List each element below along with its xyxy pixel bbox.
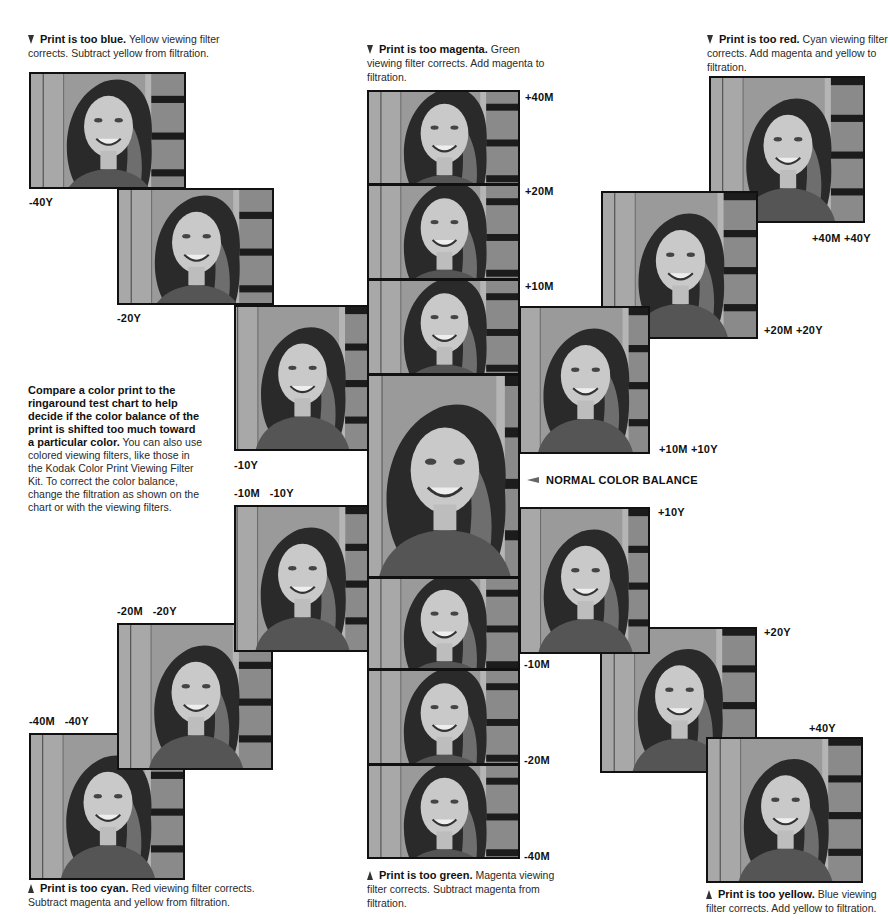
pointer-down-icon [28,35,34,44]
normal-color-balance-pointer: NORMAL COLOR BALANCE [527,474,698,486]
photo-minus-40m [367,764,520,859]
label-plus-20y: +20Y [764,626,791,638]
photo-normal-color-balance [367,374,520,578]
pointer-up-icon [28,884,34,893]
label-minus-20m-minus-20y: -20M -20Y [117,605,177,617]
label-minus-40m: -40M [524,850,550,862]
caption-too-red: Print is too red. Cyan viewing filter co… [707,32,889,74]
pointer-down-icon [707,35,713,44]
label-plus-10y: +10Y [658,506,685,518]
photo-plus-40m [367,90,520,185]
caption-too-yellow: Print is too yellow. Blue viewing filter… [706,887,886,915]
label-plus-10m: +10M [525,280,554,292]
photo-plus-10y [519,507,650,654]
caption-too-cyan: Print is too cyan. Red viewing filter co… [28,881,258,909]
intro-paragraph: Compare a color print to the ringaround … [28,384,203,514]
photo-plus-40y [706,737,863,883]
photo-minus-20y [117,188,274,305]
pointer-up-icon [706,890,712,899]
photo-minus-20m [367,669,520,765]
label-plus-40m: +40M [525,91,554,103]
label-plus-20m: +20M [525,185,554,197]
photo-plus-20m [367,184,520,280]
label-plus-40m-plus-40y: +40M +40Y [812,232,871,244]
photo-minus-10m [367,577,520,670]
label-minus-20y: -20Y [117,312,141,324]
label-plus-10m-plus-10y: +10M +10Y [659,443,718,455]
photo-minus-10m-minus-10y [234,505,369,652]
photo-plus-10m [367,279,520,375]
caption-too-green: Print is too green. Magenta viewing filt… [367,868,567,910]
label-minus-40y: -40Y [29,196,53,208]
label-minus-10y: -10Y [234,459,258,471]
photo-minus-10y [234,305,369,451]
arrow-left-icon [527,477,539,483]
pointer-down-icon [367,45,373,54]
photo-minus-40y [29,72,186,189]
label-minus-10m-minus-10y: -10M -10Y [234,487,294,499]
label-plus-20m-plus-20y: +20M +20Y [764,324,823,336]
normal-color-balance-label: NORMAL COLOR BALANCE [546,474,698,486]
label-minus-20m: -20M [524,754,550,766]
label-minus-10m: -10M [524,658,550,670]
caption-too-magenta: Print is too magenta. Green viewing filt… [367,42,557,84]
caption-too-blue: Print is too blue. Yellow viewing filter… [28,32,228,60]
photo-plus-10m-plus-10y [519,306,650,454]
label-minus-40m-minus-40y: -40M -40Y [29,715,89,727]
label-plus-40y: +40Y [809,722,836,734]
pointer-up-icon [367,871,373,880]
